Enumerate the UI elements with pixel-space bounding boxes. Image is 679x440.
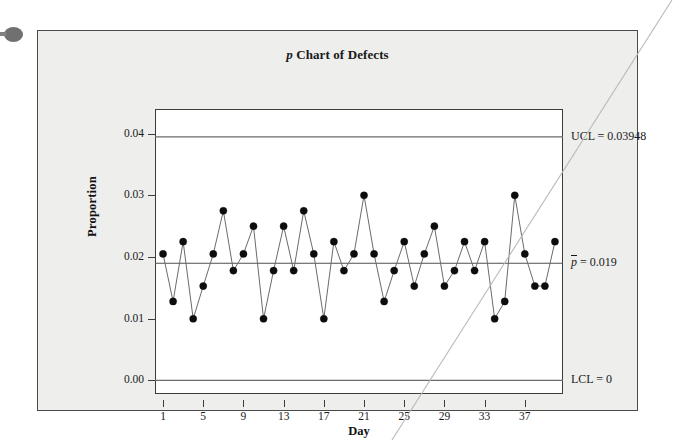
x-tick-mark bbox=[364, 400, 365, 407]
data-point bbox=[501, 298, 508, 305]
y-tick-label: 0.04 bbox=[98, 128, 144, 140]
y-tick-label: 0.01 bbox=[98, 313, 144, 325]
chart-title: p Chart of Defects bbox=[38, 47, 637, 63]
data-point bbox=[190, 315, 197, 322]
data-point bbox=[461, 238, 468, 245]
x-tick-label: 9 bbox=[228, 411, 258, 423]
chart-figure-frame: p Chart of Defects Proportion 0.040.030.… bbox=[37, 30, 638, 411]
y-tick-mark bbox=[148, 257, 155, 258]
data-point bbox=[320, 315, 327, 322]
data-point bbox=[180, 238, 187, 245]
data-point bbox=[350, 250, 357, 257]
x-tick-mark bbox=[444, 400, 445, 407]
data-point bbox=[531, 282, 538, 289]
data-point bbox=[310, 250, 317, 257]
x-tick-label: 29 bbox=[429, 411, 459, 423]
chart-title-text: Chart of Defects bbox=[293, 47, 389, 62]
x-tick-label: 5 bbox=[188, 411, 218, 423]
data-point bbox=[270, 267, 277, 274]
x-axis-label: Day bbox=[155, 424, 563, 439]
data-point bbox=[370, 250, 377, 257]
x-tick-label: 21 bbox=[349, 411, 379, 423]
data-point bbox=[511, 192, 518, 199]
y-tick-label: 0.00 bbox=[98, 374, 144, 386]
y-tick-mark bbox=[148, 195, 155, 196]
data-point bbox=[381, 298, 388, 305]
data-point bbox=[300, 207, 307, 214]
ucl-annotation: UCL = 0.03948 bbox=[571, 130, 646, 142]
scan-artifact-blob bbox=[4, 27, 23, 42]
data-point bbox=[551, 238, 558, 245]
plot-inner bbox=[155, 109, 563, 394]
x-tick-label: 37 bbox=[510, 411, 540, 423]
data-point bbox=[330, 238, 337, 245]
page-canvas: p Chart of Defects Proportion 0.040.030.… bbox=[0, 0, 679, 440]
y-tick-label: 0.03 bbox=[98, 189, 144, 201]
data-point bbox=[290, 267, 297, 274]
data-point bbox=[431, 223, 438, 230]
y-tick-mark bbox=[148, 380, 155, 381]
data-point bbox=[481, 238, 488, 245]
x-tick-mark bbox=[163, 400, 164, 407]
control-chart-plot bbox=[155, 109, 563, 394]
data-point bbox=[159, 250, 166, 257]
data-point bbox=[401, 238, 408, 245]
data-point bbox=[240, 250, 247, 257]
y-tick-label: 0.02 bbox=[98, 251, 144, 263]
data-point bbox=[169, 298, 176, 305]
data-point bbox=[340, 267, 347, 274]
x-tick-mark bbox=[525, 400, 526, 407]
data-point bbox=[451, 267, 458, 274]
x-tick-label: 1 bbox=[148, 411, 178, 423]
x-tick-label: 13 bbox=[269, 411, 299, 423]
y-tick-mark bbox=[148, 134, 155, 135]
x-tick-mark bbox=[243, 400, 244, 407]
x-tick-label: 25 bbox=[389, 411, 419, 423]
x-tick-mark bbox=[485, 400, 486, 407]
data-point bbox=[250, 223, 257, 230]
center-line-annotation: p = 0.019 bbox=[571, 254, 617, 268]
data-point bbox=[260, 315, 267, 322]
data-point bbox=[230, 267, 237, 274]
data-point bbox=[441, 282, 448, 289]
lcl-annotation: LCL = 0 bbox=[571, 373, 612, 385]
data-point bbox=[391, 267, 398, 274]
data-point bbox=[491, 315, 498, 322]
data-point bbox=[471, 267, 478, 274]
x-tick-mark bbox=[203, 400, 204, 407]
data-point bbox=[521, 250, 528, 257]
data-point bbox=[360, 192, 367, 199]
x-tick-label: 17 bbox=[309, 411, 339, 423]
data-point bbox=[541, 282, 548, 289]
data-point bbox=[200, 282, 207, 289]
data-point bbox=[210, 250, 217, 257]
data-point bbox=[280, 223, 287, 230]
x-tick-mark bbox=[284, 400, 285, 407]
x-tick-mark bbox=[324, 400, 325, 407]
chart-title-symbol: p bbox=[286, 47, 293, 62]
x-tick-mark bbox=[404, 400, 405, 407]
data-point bbox=[411, 282, 418, 289]
data-point bbox=[421, 250, 428, 257]
center-line-value: = 0.019 bbox=[577, 255, 617, 269]
x-tick-label: 33 bbox=[470, 411, 500, 423]
y-tick-mark bbox=[148, 319, 155, 320]
data-point bbox=[220, 207, 227, 214]
